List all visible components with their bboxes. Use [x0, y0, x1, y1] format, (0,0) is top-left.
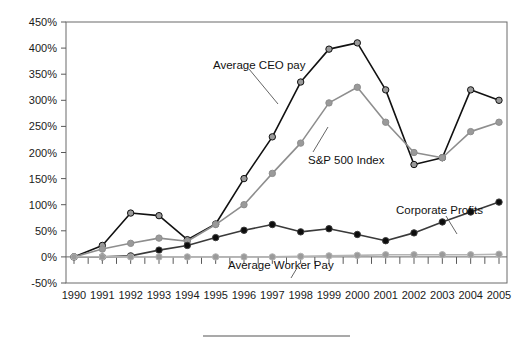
data-point: [496, 199, 502, 205]
data-point: [354, 231, 360, 237]
data-point: [467, 87, 473, 93]
x-tick-label: 2001: [373, 289, 397, 301]
y-tick-label: 450%: [29, 16, 57, 28]
data-point: [184, 242, 190, 248]
data-point: [241, 227, 247, 233]
x-tick-label: 2004: [458, 289, 482, 301]
x-tick-label: 1993: [147, 289, 171, 301]
y-tick-label: 400%: [29, 42, 57, 54]
data-point: [71, 254, 77, 260]
data-point: [99, 254, 105, 260]
x-tick-label: 1990: [62, 289, 86, 301]
data-point: [326, 226, 332, 232]
x-tick-label: 2002: [402, 289, 426, 301]
y-tick-label: 350%: [29, 68, 57, 80]
data-point: [212, 254, 218, 260]
line-chart: 450%400%350%300%250%200%150%100%50%0%-50…: [0, 0, 525, 346]
data-point: [184, 254, 190, 260]
data-point: [269, 170, 275, 176]
data-point: [382, 252, 388, 258]
data-point: [496, 251, 502, 257]
data-point: [127, 240, 133, 246]
data-point: [241, 202, 247, 208]
x-tick-label: 2000: [345, 289, 369, 301]
data-point: [156, 212, 162, 218]
data-point: [354, 84, 360, 90]
x-tick-label: 1992: [118, 289, 142, 301]
data-point: [354, 252, 360, 258]
data-point: [297, 140, 303, 146]
x-tick-label: 1999: [317, 289, 341, 301]
data-point: [156, 254, 162, 260]
y-tick-label: 200%: [29, 147, 57, 159]
y-tick-label: 0%: [41, 251, 57, 263]
data-point: [156, 247, 162, 253]
y-tick-label: 250%: [29, 120, 57, 132]
data-point: [127, 254, 133, 260]
data-point: [382, 238, 388, 244]
y-tick-label: 150%: [29, 173, 57, 185]
y-tick-label: -50%: [31, 277, 57, 289]
data-point: [297, 229, 303, 235]
data-point: [411, 161, 417, 167]
data-point: [127, 210, 133, 216]
data-point: [467, 128, 473, 134]
data-point: [269, 221, 275, 227]
y-tick-label: 300%: [29, 94, 57, 106]
data-point: [439, 252, 445, 258]
x-tick-label: 1998: [288, 289, 312, 301]
data-point: [241, 175, 247, 181]
data-point: [99, 246, 105, 252]
y-tick-label: 50%: [35, 225, 57, 237]
data-point: [411, 230, 417, 236]
annotation-sp500: S&P 500 Index: [308, 154, 385, 166]
data-point: [382, 87, 388, 93]
data-point: [326, 100, 332, 106]
data-point: [354, 40, 360, 46]
annotation-average-worker-pay: Average Worker Pay: [228, 259, 334, 271]
data-point: [269, 134, 275, 140]
x-tick-label: 2003: [430, 289, 454, 301]
x-tick-label: 1996: [232, 289, 256, 301]
annotation-corporate-profits: Corporate Profits: [396, 204, 483, 216]
chart-container: 450%400%350%300%250%200%150%100%50%0%-50…: [0, 0, 525, 346]
y-tick-label: 100%: [29, 199, 57, 211]
data-point: [156, 235, 162, 241]
data-point: [411, 149, 417, 155]
data-point: [212, 234, 218, 240]
data-point: [496, 97, 502, 103]
data-point: [382, 119, 388, 125]
x-tick-label: 2005: [487, 289, 511, 301]
data-point: [326, 46, 332, 52]
data-point: [297, 79, 303, 85]
x-tick-label: 1994: [175, 289, 199, 301]
data-point: [439, 219, 445, 225]
annotation-ceo-pay: Average CEO pay: [213, 59, 306, 71]
data-point: [467, 252, 473, 258]
data-point: [439, 155, 445, 161]
x-tick-label: 1997: [260, 289, 284, 301]
x-tick-label: 1991: [90, 289, 114, 301]
data-point: [411, 252, 417, 258]
data-point: [212, 221, 218, 227]
y-axis: 450%400%350%300%250%200%150%100%50%0%-50…: [29, 16, 66, 289]
data-point: [496, 119, 502, 125]
x-tick-label: 1995: [203, 289, 227, 301]
